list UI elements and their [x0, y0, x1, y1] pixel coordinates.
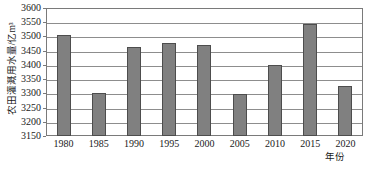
- bar-chart: 农田灌溉用水量/亿m³ 3150320032503300335034003450…: [0, 0, 375, 170]
- bar-series: [46, 8, 363, 136]
- bar: [268, 65, 282, 136]
- y-tick-label: 3500: [21, 31, 41, 41]
- bar-slot: [328, 8, 363, 136]
- y-tick-label: 3350: [21, 74, 41, 84]
- bar-slot: [293, 8, 328, 136]
- y-tick-label: 3250: [21, 103, 41, 113]
- x-axis-tick-labels: 198019851990199520002005201020152020: [46, 138, 363, 152]
- bar-slot: [257, 8, 292, 136]
- bar-slot: [152, 8, 187, 136]
- bar: [303, 24, 317, 136]
- y-tick-label: 3200: [21, 117, 41, 127]
- y-tick-label: 3450: [21, 46, 41, 56]
- bar-slot: [222, 8, 257, 136]
- bar: [162, 43, 176, 136]
- x-tick-label: 1995: [159, 138, 179, 149]
- bar: [92, 93, 106, 136]
- x-tick-label: 2015: [300, 138, 320, 149]
- y-tick-label: 3300: [21, 88, 41, 98]
- x-tick-label: 2020: [335, 138, 355, 149]
- x-tick-label: 2000: [195, 138, 215, 149]
- bar-slot: [116, 8, 151, 136]
- bar: [197, 45, 211, 136]
- bar: [338, 86, 352, 136]
- y-tick-label: 3150: [21, 131, 41, 141]
- bar: [127, 47, 141, 136]
- x-axis-title: 年份: [325, 152, 345, 162]
- y-axis-tick-labels: 3150320032503300335034003450350035503600: [0, 0, 44, 146]
- bar-slot: [187, 8, 222, 136]
- y-tick-label: 3550: [21, 17, 41, 27]
- bar-slot: [81, 8, 116, 136]
- x-tick-label: 2005: [230, 138, 250, 149]
- bar: [233, 94, 247, 136]
- bar-slot: [46, 8, 81, 136]
- x-tick-label: 2010: [265, 138, 285, 149]
- x-tick-label: 1990: [124, 138, 144, 149]
- x-tick-label: 1980: [54, 138, 74, 149]
- y-tick-label: 3600: [21, 3, 41, 13]
- x-tick-label: 1985: [89, 138, 109, 149]
- y-tick-mark: [43, 136, 46, 137]
- bar: [57, 35, 71, 136]
- y-tick-label: 3400: [21, 60, 41, 70]
